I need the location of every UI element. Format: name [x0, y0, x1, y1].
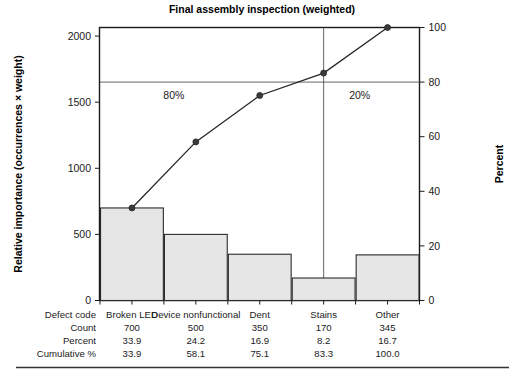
table-cell: 345: [380, 322, 396, 333]
y-tick-label: 2000: [68, 30, 92, 42]
table-cell: 33.9: [123, 335, 142, 346]
table-cell: 100.0: [376, 348, 400, 359]
table-cell: 58.1: [187, 348, 206, 359]
y-axis-right-ticks: 020406080100: [420, 21, 447, 306]
bar: [292, 278, 355, 300]
table-cell: 350: [252, 322, 268, 333]
y2-tick-label: 80: [429, 76, 441, 88]
data-table: Defect codeCountPercentCumulative %Broke…: [37, 309, 401, 359]
table-row-label: Count: [70, 322, 96, 333]
y-axis-left-ticks: 0500100015002000: [68, 30, 100, 306]
y2-tick-label: 0: [429, 294, 435, 306]
cumulative-point-marker: [257, 92, 263, 98]
y2-tick-label: 40: [429, 185, 441, 197]
table-cell: 170: [316, 322, 332, 333]
y-tick-label: 500: [73, 228, 91, 240]
table-cell: 24.2: [187, 335, 206, 346]
table-cell: 500: [188, 322, 204, 333]
y-tick-label: 1000: [68, 162, 92, 174]
pareto-chart: Final assembly inspection (weighted) 050…: [0, 0, 525, 376]
table-cell: 75.1: [250, 348, 269, 359]
cumulative-point-marker: [129, 205, 135, 211]
table-category-label: Device nonfunctional: [151, 309, 240, 320]
table-cell: 16.9: [250, 335, 269, 346]
cumulative-line-series: [132, 28, 388, 208]
bar: [356, 255, 419, 301]
table-category-label: Broken LED: [106, 309, 158, 320]
y-axis-right-title: Percent: [493, 144, 505, 183]
annotation-20pct: 20%: [349, 89, 370, 101]
bar-series: [101, 208, 419, 301]
table-cell: 33.9: [123, 348, 142, 359]
table-row-label: Cumulative %: [37, 348, 97, 359]
table-row-label: Defect code: [45, 309, 96, 320]
table-category-label: Other: [376, 309, 401, 320]
y2-tick-label: 20: [429, 240, 441, 252]
cumulative-markers: [129, 25, 391, 211]
table-cell: 700: [124, 322, 140, 333]
cumulative-point-marker: [321, 70, 327, 76]
bar: [164, 234, 227, 300]
table-category-label: Stains: [310, 309, 337, 320]
percent-annotations: 80%20%: [163, 89, 370, 101]
cumulative-point-marker: [385, 25, 391, 31]
y2-tick-label: 100: [429, 21, 447, 33]
bar: [228, 254, 291, 300]
table-category-label: Dent: [250, 309, 271, 320]
table-row-label: Percent: [63, 335, 96, 346]
pareto-chart-page: Final assembly inspection (weighted) 050…: [0, 0, 525, 376]
y-tick-label: 1500: [68, 96, 92, 108]
cumulative-percent-line: [132, 28, 388, 208]
chart-title: Final assembly inspection (weighted): [169, 3, 355, 15]
table-cell: 16.7: [378, 335, 397, 346]
annotation-80pct: 80%: [163, 89, 184, 101]
table-cell: 8.2: [317, 335, 330, 346]
y-tick-label: 0: [85, 294, 91, 306]
table-cell: 83.3: [314, 348, 333, 359]
cumulative-point-marker: [193, 139, 199, 145]
y2-tick-label: 60: [429, 130, 441, 142]
y-axis-left-title: Relative importance (occurrences × weigh…: [12, 55, 24, 272]
bar: [101, 208, 164, 301]
